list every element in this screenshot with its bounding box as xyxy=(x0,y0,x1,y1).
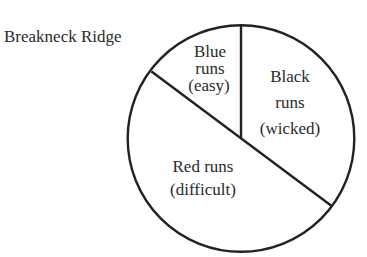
slice-label-blue: Blue runs (easy) xyxy=(188,42,230,95)
slice-label-black-line2: runs xyxy=(275,93,304,112)
slice-label-red-line2: (difficult) xyxy=(170,180,236,199)
slice-label-blue-line3: (easy) xyxy=(188,76,230,95)
slice-label-black-line3: (wicked) xyxy=(260,119,320,138)
slice-label-black-line1: Black xyxy=(270,67,310,86)
slice-label-red-line1: Red runs xyxy=(173,157,234,176)
chart-title: Breakneck Ridge xyxy=(4,27,122,46)
pie-chart: Breakneck Ridge Blue runs (easy) Black r… xyxy=(0,0,367,257)
pie xyxy=(128,25,355,252)
